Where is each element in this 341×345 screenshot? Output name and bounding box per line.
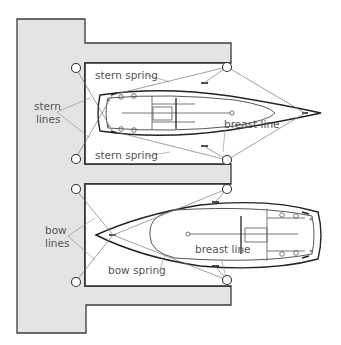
bollard-icon <box>72 278 81 287</box>
label-breast-line-top: breast line <box>224 118 280 130</box>
label-stern-spring-bottom: stern spring <box>95 149 158 161</box>
bollard-icon <box>72 185 81 194</box>
mooring-diagram: stern lines stern spring stern spring br… <box>0 0 341 345</box>
label-bow-spring: bow spring <box>108 264 166 276</box>
label-stern-lines: lines <box>36 113 60 125</box>
label-bow-lines: lines <box>45 237 69 249</box>
label-stern-spring-top: stern spring <box>95 69 158 81</box>
bollard-icon <box>223 63 232 72</box>
label-bow-lines: bow <box>45 224 67 236</box>
bollard-icon <box>72 64 81 73</box>
bollard-icon <box>72 155 81 164</box>
bollard-icon <box>223 185 232 194</box>
label-stern-lines: stern <box>34 100 61 112</box>
label-breast-line-bottom: breast line <box>195 243 251 255</box>
bollard-icon <box>223 156 232 165</box>
bollard-icon <box>223 276 232 285</box>
